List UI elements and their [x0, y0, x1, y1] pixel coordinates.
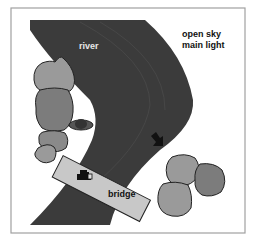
- sky-label-line1: open sky: [182, 29, 221, 39]
- tree-right-1: [166, 155, 199, 186]
- subject-icon-top: [75, 119, 87, 129]
- sky-label-line2: main light: [182, 40, 225, 50]
- tree-left-2: [36, 88, 74, 131]
- scene-diagram: river open sky main light bridge: [0, 0, 253, 245]
- bridge-label: bridge: [108, 189, 136, 199]
- river-label: river: [79, 41, 99, 51]
- tree-right-2: [195, 164, 225, 196]
- tree-left-4: [35, 145, 56, 163]
- tree-right-3: [158, 182, 192, 216]
